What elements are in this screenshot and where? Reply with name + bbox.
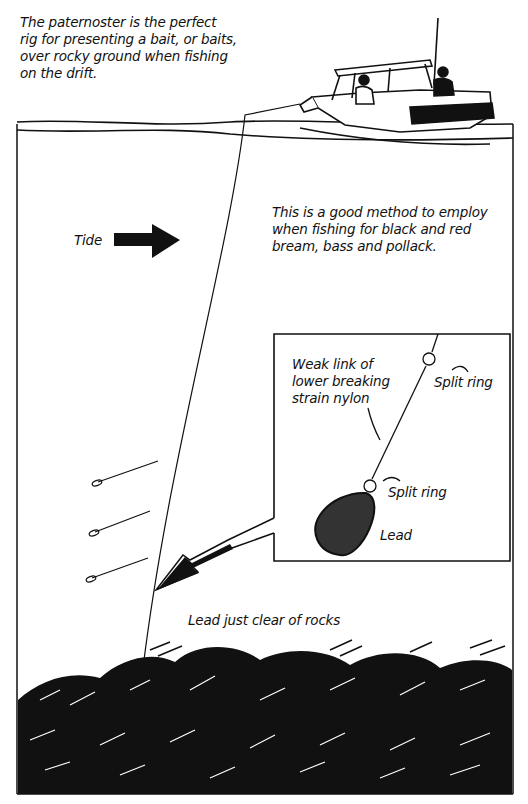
caption-line: on the drift. bbox=[20, 65, 270, 82]
rocky-seabed bbox=[18, 647, 512, 794]
hook-snoods bbox=[85, 461, 158, 583]
caption-line: when fishing for black and red bbox=[272, 221, 512, 238]
lead-label: Lead bbox=[380, 527, 412, 544]
tide-label: Tide bbox=[74, 232, 102, 249]
tide-arrow-icon bbox=[114, 224, 180, 258]
label-line: Weak link of bbox=[292, 356, 412, 373]
method-caption: This is a good method to employ when fis… bbox=[272, 204, 512, 255]
weak-link-label: Weak link of lower breaking strain nylon bbox=[292, 356, 412, 407]
caption-line: The paternoster is the perfect bbox=[20, 14, 270, 31]
label-line: lower breaking bbox=[292, 373, 412, 390]
boat bbox=[300, 18, 494, 132]
lead-weight-large bbox=[315, 493, 374, 555]
caption-line: bream, bass and pollack. bbox=[272, 238, 512, 255]
magnify-arrow-icon bbox=[156, 518, 274, 590]
label-line: strain nylon bbox=[292, 390, 412, 407]
caption-line: This is a good method to employ bbox=[272, 204, 512, 221]
intro-caption: The paternoster is the perfect rig for p… bbox=[20, 14, 270, 82]
split-ring-top-label: Split ring bbox=[434, 374, 493, 391]
caption-line: over rocky ground when fishing bbox=[20, 48, 270, 65]
lead-clear-label: Lead just clear of rocks bbox=[188, 612, 340, 629]
caption-line: rig for presenting a bait, or baits, bbox=[20, 31, 270, 48]
split-ring-bottom-label: Split ring bbox=[388, 484, 447, 501]
paternoster-rig-illustration bbox=[0, 0, 528, 804]
